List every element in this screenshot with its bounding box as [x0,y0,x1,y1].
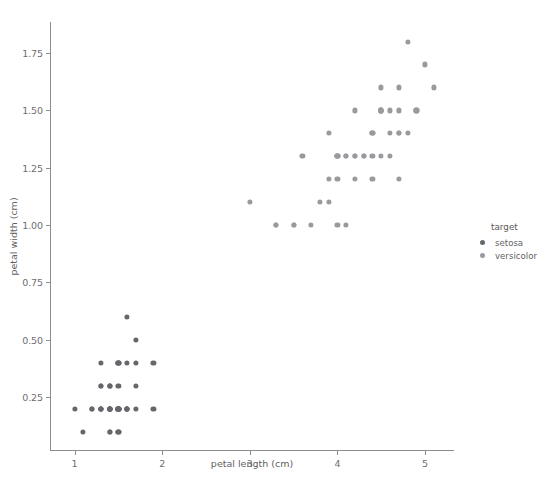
scatter-plot-figure: petal width (cm) 0.250.500.751.001.251.5… [0,0,552,487]
y-tick-label: 0.25 [22,392,43,403]
y-tick-mark [46,282,50,283]
x-tick-mark [75,451,76,455]
y-tick-mark [46,225,50,226]
data-point-versicolor [370,154,375,159]
x-axis-spine [50,450,454,451]
data-point-versicolor [274,222,279,227]
data-point-setosa [72,406,77,411]
legend-title: target [491,222,548,232]
data-point-versicolor [422,62,427,67]
data-point-setosa [151,406,156,411]
data-point-versicolor [405,39,410,44]
legend-marker-icon [474,253,491,258]
data-point-setosa [98,383,103,388]
data-point-versicolor [352,154,357,159]
data-point-setosa [125,314,130,319]
data-point-setosa [116,406,121,411]
data-point-versicolor [379,154,384,159]
data-point-versicolor [335,154,340,159]
y-tick-mark [46,53,50,54]
data-point-versicolor [247,199,252,204]
y-tick-label: 1.50 [22,105,43,116]
data-point-setosa [107,406,112,411]
data-point-versicolor [326,199,331,204]
data-point-versicolor [361,154,366,159]
y-tick-mark [46,397,50,398]
data-point-versicolor [405,131,410,136]
data-point-setosa [125,360,130,365]
data-point-versicolor [291,222,296,227]
data-point-setosa [125,406,130,411]
data-point-setosa [89,406,94,411]
data-point-setosa [116,383,121,388]
data-point-versicolor [344,222,349,227]
x-tick-mark [425,451,426,455]
data-point-setosa [107,429,112,434]
legend-entry-setosa[interactable]: setosa [474,236,548,249]
plot-area: 0.250.500.751.001.251.501.75 12345 [50,22,454,451]
data-point-setosa [107,383,112,388]
data-point-versicolor [352,108,357,113]
data-point-versicolor [344,154,349,159]
data-point-setosa [133,406,138,411]
data-point-versicolor [309,222,314,227]
data-point-setosa [151,360,156,365]
y-axis-spine [50,22,51,451]
data-point-versicolor [326,177,331,182]
data-point-versicolor [370,131,375,136]
data-point-versicolor [387,131,392,136]
data-point-versicolor [335,177,340,182]
legend-entries: setosaversicolor [474,236,548,262]
data-point-setosa [98,360,103,365]
data-point-setosa [133,383,138,388]
x-tick-mark [250,451,251,455]
data-point-versicolor [379,85,384,90]
data-point-versicolor [326,131,331,136]
data-point-setosa [133,360,138,365]
data-point-versicolor [387,154,392,159]
y-tick-mark [46,168,50,169]
data-point-versicolor [396,108,401,113]
y-tick-label: 1.75 [22,47,43,58]
x-axis-label: petal length (cm) [50,458,454,469]
legend-entry-label: versicolor [491,251,537,261]
y-tick-label: 0.75 [22,277,43,288]
y-tick-label: 0.50 [22,334,43,345]
data-point-versicolor [431,85,436,90]
x-tick-mark [162,451,163,455]
data-point-versicolor [335,222,340,227]
legend-marker-icon [474,240,491,245]
data-point-versicolor [396,131,401,136]
data-point-setosa [98,406,103,411]
x-tick-mark [337,451,338,455]
data-point-setosa [133,337,138,342]
data-point-versicolor [396,85,401,90]
y-tick-mark [46,340,50,341]
legend-entry-label: setosa [491,238,523,248]
data-point-versicolor [379,108,384,113]
legend: target setosaversicolor [474,222,548,262]
data-point-versicolor [370,177,375,182]
y-tick-label: 1.00 [22,220,43,231]
legend-entry-versicolor[interactable]: versicolor [474,249,548,262]
data-point-setosa [81,429,86,434]
y-tick-label: 1.25 [22,162,43,173]
data-point-versicolor [352,177,357,182]
data-point-versicolor [396,177,401,182]
data-point-versicolor [300,154,305,159]
data-point-versicolor [387,108,392,113]
y-tick-mark [46,110,50,111]
data-point-versicolor [317,199,322,204]
data-point-versicolor [414,108,419,113]
data-point-setosa [116,360,121,365]
y-axis-label: petal width (cm) [6,22,20,451]
data-point-setosa [116,429,121,434]
